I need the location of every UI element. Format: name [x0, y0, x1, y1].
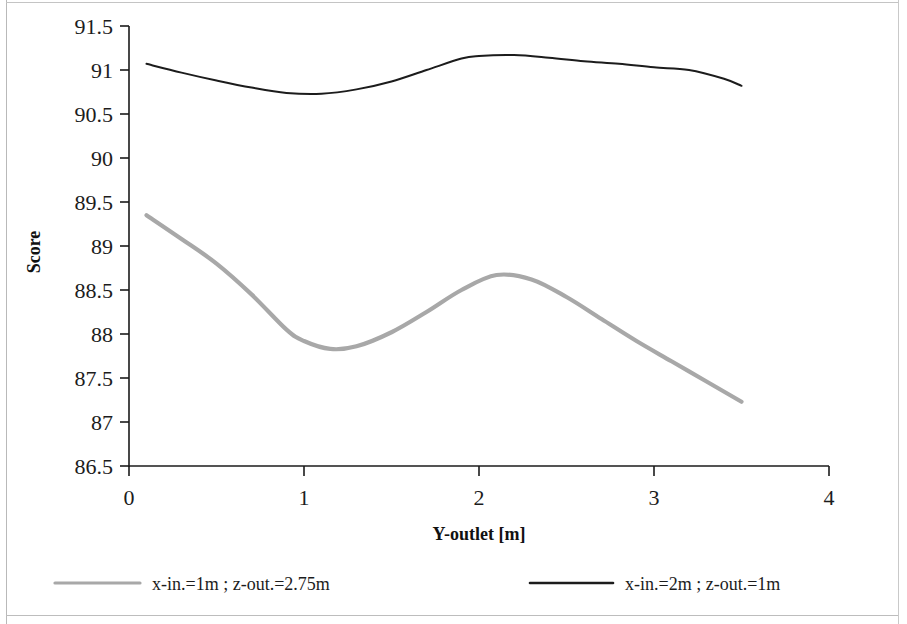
x-tick-label: 1 [299, 485, 310, 510]
y-tick-label: 91.5 [75, 14, 114, 39]
y-tick-label: 86.5 [75, 454, 114, 479]
x-axis-tick-labels: 01234 [124, 485, 835, 510]
y-axis-ticks [120, 26, 129, 466]
chart-legend: x-in.=1m ; z-out.=2.75m x-in.=2m ; z-out… [55, 574, 780, 594]
y-tick-label: 89.5 [75, 190, 114, 215]
legend-label-series-2: x-in.=2m ; z-out.=1m [625, 574, 780, 594]
series-line-2 [147, 55, 742, 94]
y-tick-label: 87 [91, 410, 113, 435]
x-tick-label: 4 [824, 485, 835, 510]
data-series-group [147, 55, 742, 402]
y-tick-label: 90.5 [75, 102, 114, 127]
x-axis-title: Y-outlet [m] [433, 524, 526, 544]
x-tick-label: 2 [474, 485, 485, 510]
x-tick-label: 0 [124, 485, 135, 510]
y-axis-title: Score [24, 231, 44, 274]
y-tick-label: 90 [91, 146, 113, 171]
x-tick-label: 3 [649, 485, 660, 510]
y-tick-label: 88 [91, 322, 113, 347]
x-axis-ticks [129, 466, 829, 476]
y-tick-label: 88.5 [75, 278, 114, 303]
line-chart-plot: 86.58787.58888.58989.59090.59191.5 01234… [0, 0, 907, 624]
series-line-1 [147, 215, 742, 402]
y-tick-label: 91 [91, 58, 113, 83]
y-tick-label: 89 [91, 234, 113, 259]
y-axis-tick-labels: 86.58787.58888.58989.59090.59191.5 [75, 14, 114, 479]
legend-label-series-1: x-in.=1m ; z-out.=2.75m [152, 574, 330, 594]
y-tick-label: 87.5 [75, 366, 114, 391]
chart-figure: 86.58787.58888.58989.59090.59191.5 01234… [0, 0, 907, 624]
